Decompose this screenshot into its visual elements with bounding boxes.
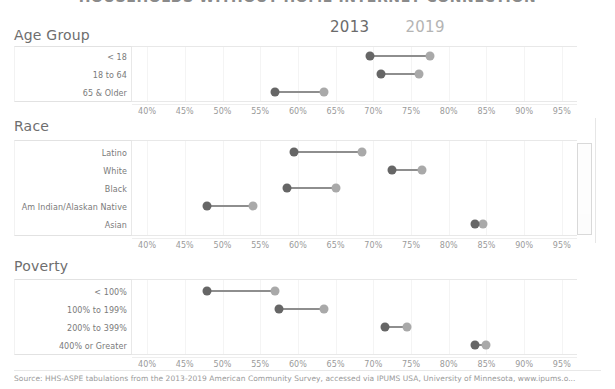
legend: 2013 2019 xyxy=(330,18,445,36)
data-point-2019-latino[interactable] xyxy=(358,148,367,157)
x-tick-label-45: 45% xyxy=(176,241,194,250)
gridline-45 xyxy=(185,140,186,236)
x-tick-label-60: 60% xyxy=(289,107,307,116)
x-tick-label-95: 95% xyxy=(553,360,571,369)
gridline-60 xyxy=(298,279,299,355)
plot-bottom-rule xyxy=(132,101,577,102)
plot-background xyxy=(132,279,577,355)
x-tick-label-55: 55% xyxy=(251,107,269,116)
gridline-50 xyxy=(223,140,224,236)
gridline-80 xyxy=(449,46,450,102)
gridline-90 xyxy=(524,140,525,236)
x-tick-label-75: 75% xyxy=(402,241,420,250)
data-point-2019-18-to-64[interactable] xyxy=(414,70,423,79)
x-tick-label-70: 70% xyxy=(364,360,382,369)
gridline-70 xyxy=(373,140,374,236)
data-point-2019-100-to-199[interactable] xyxy=(320,305,329,314)
plot-top-rule xyxy=(132,140,577,141)
row-label-column-poverty: < 100%100% to 199%200% to 399%400% or Gr… xyxy=(14,279,132,355)
x-tick-label-50: 50% xyxy=(213,360,231,369)
x-tick-label-60: 60% xyxy=(289,241,307,250)
source-divider xyxy=(14,370,601,371)
panel-title-poverty: Poverty xyxy=(14,258,68,274)
gridline-95 xyxy=(562,279,563,355)
x-axis-age-group: 40%45%50%55%60%65%70%75%80%85%90%95% xyxy=(132,104,577,117)
row-label-latino: Latino xyxy=(102,149,127,158)
data-point-2013-100-to-199[interactable] xyxy=(275,305,284,314)
connector-100 xyxy=(207,290,275,292)
gridline-40 xyxy=(147,279,148,355)
data-point-2013-400-or-greater[interactable] xyxy=(471,341,480,350)
x-tick-label-70: 70% xyxy=(364,241,382,250)
x-tick-label-75: 75% xyxy=(402,107,420,116)
plot-top-rule xyxy=(132,46,577,47)
data-point-2019-black[interactable] xyxy=(331,184,340,193)
data-point-2013-18-to-64[interactable] xyxy=(376,70,385,79)
gridline-90 xyxy=(524,46,525,102)
gridline-40 xyxy=(147,140,148,236)
row-label-asian: Asian xyxy=(105,221,127,230)
scrollbar-thumb[interactable] xyxy=(578,144,591,214)
row-label-100: < 100% xyxy=(94,288,127,297)
gridline-75 xyxy=(411,279,412,355)
data-point-2013-white[interactable] xyxy=(388,166,397,175)
gridline-60 xyxy=(298,46,299,102)
data-point-2013-100[interactable] xyxy=(203,287,212,296)
data-point-2013-black[interactable] xyxy=(282,184,291,193)
x-tick-label-90: 90% xyxy=(515,360,533,369)
legend-item-2019[interactable]: 2019 xyxy=(405,18,444,36)
row-label-18: < 18 xyxy=(107,53,127,62)
gridline-80 xyxy=(449,140,450,236)
x-tick-label-85: 85% xyxy=(477,107,495,116)
x-tick-label-60: 60% xyxy=(289,360,307,369)
plot-top-rule xyxy=(132,279,577,280)
data-point-2013-65-older[interactable] xyxy=(271,88,280,97)
race-panel-scrollbar[interactable] xyxy=(577,143,592,235)
data-point-2019-am-indian-alaskan-native[interactable] xyxy=(248,202,257,211)
data-point-2013-am-indian-alaskan-native[interactable] xyxy=(203,202,212,211)
plot-area-poverty xyxy=(132,279,577,355)
gridline-90 xyxy=(524,279,525,355)
data-point-2013-asian[interactable] xyxy=(471,220,480,229)
axis-rule xyxy=(132,238,577,239)
data-point-2019-65-older[interactable] xyxy=(320,88,329,97)
plot-area-age-group xyxy=(132,46,577,102)
legend-item-2013[interactable]: 2013 xyxy=(330,18,369,36)
x-tick-label-70: 70% xyxy=(364,107,382,116)
x-tick-label-85: 85% xyxy=(477,360,495,369)
x-tick-label-65: 65% xyxy=(327,241,345,250)
data-point-2013-18[interactable] xyxy=(365,52,374,61)
plot-background xyxy=(132,140,577,236)
gridline-65 xyxy=(336,46,337,102)
x-tick-label-80: 80% xyxy=(440,107,458,116)
x-axis-race: 40%45%50%55%60%65%70%75%80%85%90%95% xyxy=(132,238,577,251)
row-label-400-or-greater: 400% or Greater xyxy=(59,342,127,351)
data-point-2013-200-to-399[interactable] xyxy=(380,323,389,332)
data-point-2019-white[interactable] xyxy=(418,166,427,175)
data-point-2019-400-or-greater[interactable] xyxy=(482,341,491,350)
source-note: Source: HHS-ASPE tabulations from the 20… xyxy=(14,374,615,383)
plot-background xyxy=(132,46,577,102)
x-tick-label-40: 40% xyxy=(138,360,156,369)
x-tick-label-80: 80% xyxy=(440,360,458,369)
row-label-column-age-group: < 1818 to 6465 & Older xyxy=(14,46,132,102)
x-tick-label-75: 75% xyxy=(402,360,420,369)
row-label-100-to-199: 100% to 199% xyxy=(67,306,127,315)
axis-rule xyxy=(132,357,577,358)
row-label-am-indian-alaskan-native: Am Indian/Alaskan Native xyxy=(22,203,127,212)
x-axis-poverty: 40%45%50%55%60%65%70%75%80%85%90%95% xyxy=(132,357,577,370)
panel-title-race: Race xyxy=(14,118,49,134)
gridline-55 xyxy=(260,140,261,236)
connector-65-older xyxy=(275,91,324,93)
plot-area-race xyxy=(132,140,577,236)
x-tick-label-90: 90% xyxy=(515,241,533,250)
data-point-2013-latino[interactable] xyxy=(290,148,299,157)
x-tick-label-95: 95% xyxy=(553,107,571,116)
data-point-2019-200-to-399[interactable] xyxy=(403,323,412,332)
x-tick-label-40: 40% xyxy=(138,241,156,250)
connector-am-indian-alaskan-native xyxy=(207,205,252,207)
data-point-2019-100[interactable] xyxy=(271,287,280,296)
x-tick-label-65: 65% xyxy=(327,360,345,369)
gridline-75 xyxy=(411,140,412,236)
data-point-2019-18[interactable] xyxy=(425,52,434,61)
